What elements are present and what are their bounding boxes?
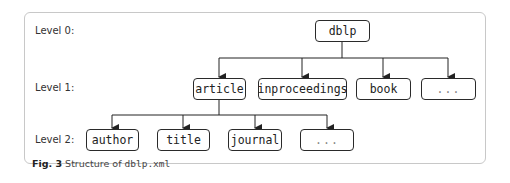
node-label: dblp bbox=[329, 24, 357, 38]
node-label: article bbox=[195, 82, 243, 96]
node-book: book bbox=[356, 78, 411, 100]
caption-text: Structure of bbox=[65, 158, 121, 169]
node-ellipsis-level1: ... bbox=[421, 78, 476, 100]
caption-code: dblp.xml bbox=[125, 158, 171, 169]
node-label: title bbox=[166, 133, 201, 147]
node-label: ... bbox=[315, 133, 339, 147]
node-inproceedings: inproceedings bbox=[258, 78, 347, 100]
node-author: author bbox=[86, 129, 139, 151]
node-title: title bbox=[157, 129, 210, 151]
node-ellipsis-level2: ... bbox=[300, 129, 354, 151]
node-label: ... bbox=[437, 82, 461, 96]
node-label: journal bbox=[231, 133, 279, 147]
node-label: author bbox=[92, 133, 134, 147]
node-article: article bbox=[193, 78, 246, 100]
node-dblp: dblp bbox=[315, 20, 370, 42]
figure-caption: Fig. 3 Structure of dblp.xml bbox=[32, 158, 170, 169]
node-label: book bbox=[370, 82, 398, 96]
node-journal: journal bbox=[228, 129, 282, 151]
figure-label: Fig. 3 bbox=[32, 158, 62, 169]
node-label: inproceedings bbox=[258, 82, 348, 96]
